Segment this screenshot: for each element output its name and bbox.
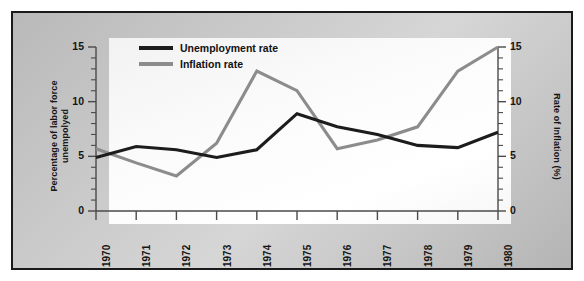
x-axis-tick-label: 1971 xyxy=(141,245,152,267)
x-axis-tick-label: 1973 xyxy=(222,245,233,267)
chart-canvas xyxy=(0,0,584,281)
series-line-unemployment xyxy=(96,114,498,158)
x-axis-tick-label: 1976 xyxy=(342,245,353,267)
y-axis-left-ticks xyxy=(88,47,96,211)
x-axis-tick-label: 1972 xyxy=(181,245,192,267)
x-axis-tick-label: 1975 xyxy=(302,245,313,267)
axes-group xyxy=(96,47,498,211)
chart-figure: Percentage of labor force unempolyed Rat… xyxy=(0,0,584,281)
y-axis-right-tick-label: 0 xyxy=(510,204,536,216)
y-axis-left-tick-label: 5 xyxy=(58,149,84,161)
series-line-inflation xyxy=(96,47,498,176)
x-axis-tick-label: 1977 xyxy=(382,245,393,267)
y-axis-right-tick-label: 15 xyxy=(510,40,536,52)
y-axis-left-tick-label: 0 xyxy=(58,204,84,216)
x-axis-tick-label: 1980 xyxy=(503,245,514,267)
x-axis-ticks xyxy=(96,211,498,220)
y-axis-right-ticks xyxy=(498,47,506,211)
y-axis-right-tick-label: 5 xyxy=(510,149,536,161)
x-axis-tick-label: 1970 xyxy=(101,245,112,267)
y-axis-left-tick-label: 10 xyxy=(58,95,84,107)
x-axis-tick-label: 1974 xyxy=(262,245,273,267)
x-axis-tick-label: 1979 xyxy=(463,245,474,267)
x-axis-tick-label: 1978 xyxy=(423,245,434,267)
y-axis-left-tick-label: 15 xyxy=(58,40,84,52)
y-axis-right-tick-label: 10 xyxy=(510,95,536,107)
